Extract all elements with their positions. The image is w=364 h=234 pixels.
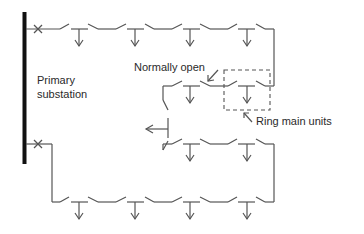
- normally-open-pointer-icon: [208, 70, 218, 81]
- substation-label-line2: substation: [37, 88, 87, 101]
- ring-main-unit-pointer-icon: [244, 113, 252, 122]
- ring-main-units-label: Ring main units: [256, 115, 332, 128]
- substation-label-line1: Primary: [37, 74, 75, 87]
- normally-open-label: Normally open: [134, 61, 205, 74]
- lower-mid-feeder: [163, 139, 274, 202]
- upper-return-feeder: [163, 81, 274, 110]
- branch-feeder: [146, 118, 168, 138]
- bottom-feeder: [26, 140, 274, 219]
- busbar: [23, 12, 27, 164]
